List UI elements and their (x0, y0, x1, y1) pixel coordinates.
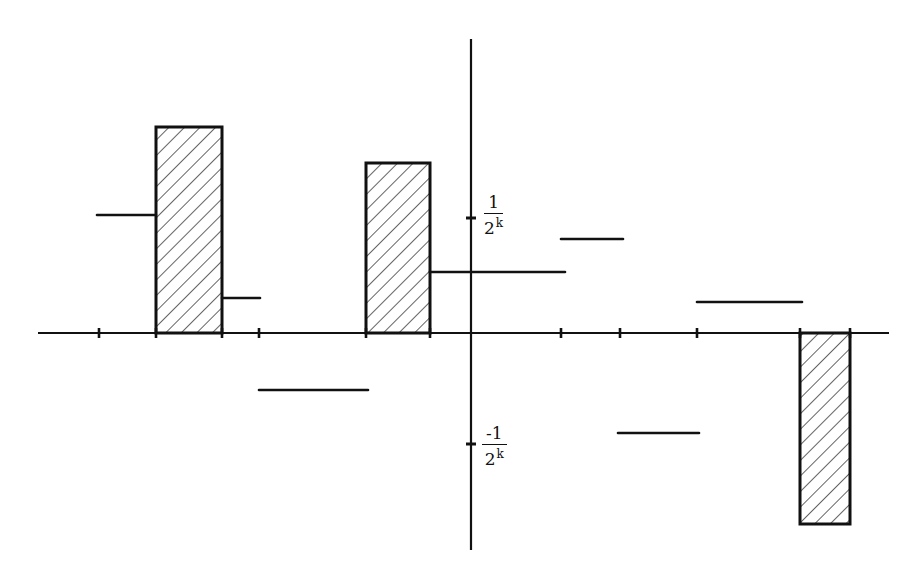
step-function-diagram (0, 0, 912, 575)
numerator: -1 (482, 425, 507, 445)
y-tick-label-positive: 1 2k (484, 194, 503, 237)
numerator: 1 (484, 194, 503, 214)
denominator: 2k (484, 214, 503, 237)
hatched-bar-3 (800, 333, 850, 524)
hatched-bar-1 (156, 127, 222, 333)
denominator: 2k (485, 445, 504, 468)
y-tick-label-negative: -1 2k (482, 425, 507, 468)
hatched-bar-2 (366, 163, 430, 333)
